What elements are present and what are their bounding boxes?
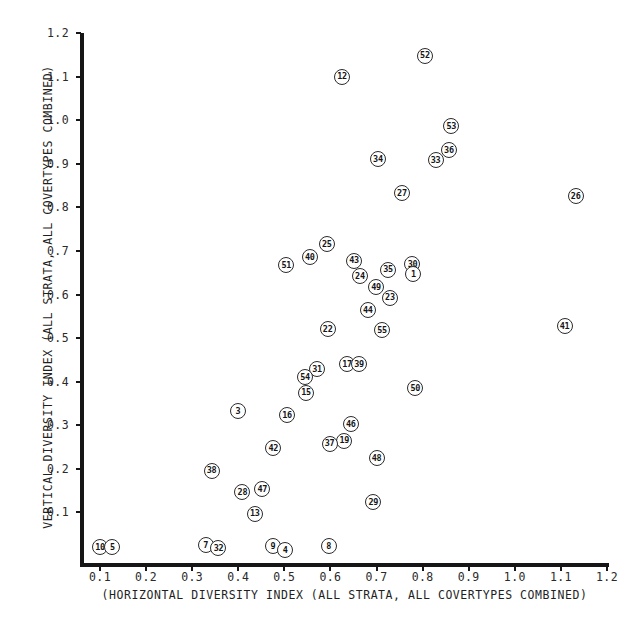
data-point-marker: 29 [365,494,381,510]
x-axis-line [80,563,609,567]
data-point-marker: 37 [322,436,338,452]
scatter-plot-figure: 0.10.20.30.40.50.60.70.80.91.01.11.2 0.1… [0,0,641,623]
data-point-marker: 54 [297,369,313,385]
data-point-marker: 40 [302,249,318,265]
x-tick-label: 1.0 [495,570,535,584]
plot-area: 0.10.20.30.40.50.60.70.80.91.01.11.2 0.1… [0,0,641,623]
data-point-marker: 34 [370,151,386,167]
x-tick-label: 0.9 [449,570,489,584]
data-point-marker: 16 [279,407,295,423]
y-tick-label: 1.2 [33,26,69,40]
data-point-marker: 25 [319,236,335,252]
y-tick-mark [76,294,81,296]
x-axis-title: (HORIZONTAL DIVERSITY INDEX (ALL STRATA,… [80,588,609,602]
data-point-marker: 22 [320,321,336,337]
data-point-marker: 42 [265,440,281,456]
x-tick-label: 0.8 [403,570,443,584]
data-point-marker: 12 [334,69,350,85]
y-tick-mark [76,32,81,34]
y-tick-mark [76,337,81,339]
y-tick-mark [76,163,81,165]
data-point-marker: 4 [277,542,293,558]
data-point-marker: 5 [104,539,120,555]
data-point-marker: 47 [254,481,270,497]
y-tick-mark [76,206,81,208]
data-point-marker: 55 [374,322,390,338]
x-tick-label: 0.3 [172,570,212,584]
data-point-marker: 52 [417,48,433,64]
data-point-marker: 19 [336,433,352,449]
y-tick-mark [76,424,81,426]
data-point-marker: 38 [204,463,220,479]
data-point-marker: 35 [380,262,396,278]
data-point-marker: 51 [278,257,294,273]
y-axis-line [80,33,84,567]
data-point-marker: 27 [394,185,410,201]
data-point-marker: 48 [369,450,385,466]
x-tick-label: 0.6 [310,570,350,584]
x-tick-label: 0.1 [80,570,120,584]
data-point-marker: 1 [405,266,421,282]
data-point-marker: 23 [382,290,398,306]
y-axis-title: VERTICAL DIVERSITY INDEX (ALL STRATA, AL… [41,57,55,537]
data-point-marker: 26 [568,188,584,204]
x-tick-label: 1.2 [587,570,627,584]
data-point-marker: 50 [407,380,423,396]
data-point-marker: 32 [210,540,226,556]
y-tick-mark [76,468,81,470]
y-tick-mark [76,381,81,383]
x-tick-label: 0.4 [218,570,258,584]
data-point-marker: 36 [441,142,457,158]
x-tick-label: 0.5 [264,570,304,584]
data-point-marker: 3 [230,403,246,419]
data-point-marker: 28 [234,484,250,500]
x-tick-label: 1.1 [541,570,581,584]
data-point-marker: 24 [352,268,368,284]
data-point-marker: 33 [428,152,444,168]
data-point-marker: 46 [343,416,359,432]
y-tick-mark [76,119,81,121]
data-point-marker: 39 [351,356,367,372]
data-point-marker: 49 [368,279,384,295]
x-tick-label: 0.7 [357,570,397,584]
data-point-marker: 41 [557,318,573,334]
y-tick-mark [76,76,81,78]
y-tick-mark [76,511,81,513]
y-tick-mark [76,250,81,252]
data-point-marker: 53 [443,118,459,134]
data-point-marker: 13 [247,506,263,522]
x-tick-label: 0.2 [126,570,166,584]
data-point-marker: 43 [346,253,362,269]
data-point-marker: 8 [321,538,337,554]
data-point-marker: 15 [298,385,314,401]
data-point-marker: 44 [360,302,376,318]
